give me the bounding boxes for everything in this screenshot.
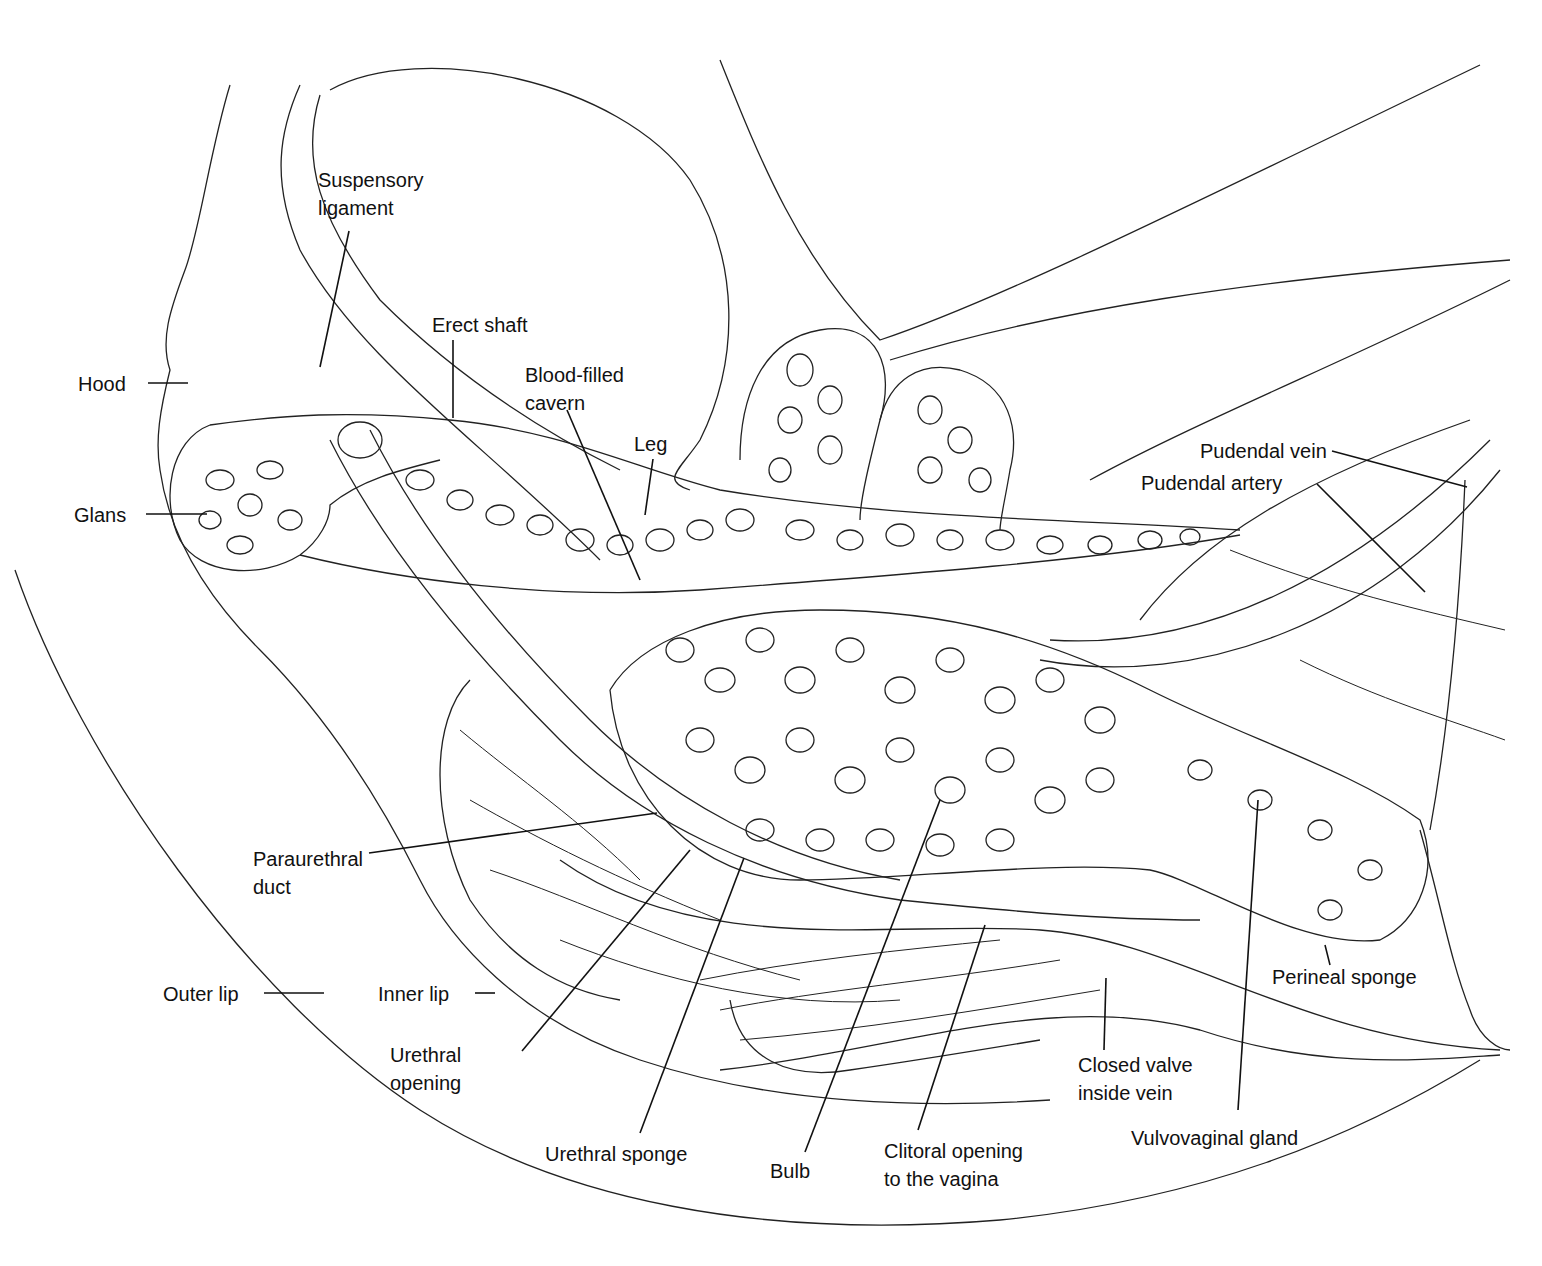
pudendal-vessel-3 bbox=[1040, 470, 1500, 667]
vagina-contour bbox=[560, 860, 1500, 1050]
shaft-outline-top bbox=[210, 415, 1240, 530]
label-line: duct bbox=[253, 873, 363, 901]
pubic-bone-outline bbox=[330, 68, 729, 490]
label-perineal-sponge: Perineal sponge bbox=[1272, 963, 1417, 991]
label-line: inside vein bbox=[1078, 1079, 1193, 1107]
upper-right-contour-2 bbox=[890, 260, 1510, 360]
label-pudendal-vein: Pudendal vein bbox=[1200, 437, 1327, 465]
label-line: Blood-filled bbox=[525, 361, 624, 389]
label-outer-lip: Outer lip bbox=[163, 980, 239, 1008]
right-buttock-contour bbox=[1420, 830, 1510, 1050]
label-line: Clitoral opening bbox=[884, 1137, 1023, 1165]
hood-contour bbox=[158, 85, 1050, 1104]
shaft-outline-bottom bbox=[300, 535, 1240, 593]
label-line: Closed valve bbox=[1078, 1051, 1193, 1079]
bulb-outline bbox=[610, 610, 1428, 941]
anatomy-illustration bbox=[0, 0, 1542, 1266]
label-closed-valve: Closed valve inside vein bbox=[1078, 1051, 1193, 1107]
right-vertical-vessel bbox=[1430, 480, 1465, 830]
label-line: Paraurethral bbox=[253, 845, 363, 873]
label-glans: Glans bbox=[74, 501, 126, 529]
label-vulvovaginal-gland: Vulvovaginal gland bbox=[1131, 1124, 1298, 1152]
label-pudendal-artery: Pudendal artery bbox=[1141, 469, 1282, 497]
label-line: ligament bbox=[318, 194, 424, 222]
label-paraurethral-duct: Paraurethral duct bbox=[253, 845, 363, 901]
right-diagonal-2 bbox=[1230, 550, 1505, 740]
crus-right bbox=[880, 367, 1013, 530]
label-line: cavern bbox=[525, 389, 624, 417]
label-blood-filled-cavern: Blood-filled cavern bbox=[525, 361, 624, 417]
crus-left bbox=[740, 329, 885, 520]
label-erect-shaft: Erect shaft bbox=[432, 311, 528, 339]
vein-plexus bbox=[700, 940, 1100, 1040]
label-suspensory-ligament: Suspensory ligament bbox=[318, 166, 424, 222]
label-inner-lip: Inner lip bbox=[378, 980, 449, 1008]
suspensory-ligament-band-2 bbox=[370, 430, 900, 880]
label-line: Suspensory bbox=[318, 166, 424, 194]
label-clitoral-opening: Clitoral opening to the vagina bbox=[884, 1137, 1023, 1193]
label-urethral-sponge: Urethral sponge bbox=[545, 1140, 687, 1168]
label-bulb: Bulb bbox=[770, 1157, 810, 1185]
suspensory-ligament-band bbox=[330, 440, 1200, 920]
glans-outline bbox=[170, 425, 440, 571]
label-leg: Leg bbox=[634, 430, 667, 458]
upper-right-contour bbox=[720, 60, 1480, 340]
label-hood: Hood bbox=[78, 370, 126, 398]
label-line: Urethral bbox=[390, 1041, 461, 1069]
label-line: opening bbox=[390, 1069, 461, 1097]
label-urethral-opening: Urethral opening bbox=[390, 1041, 461, 1097]
label-line: to the vagina bbox=[884, 1165, 1023, 1193]
